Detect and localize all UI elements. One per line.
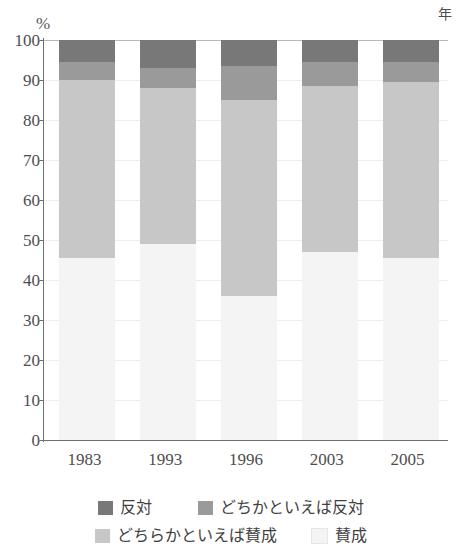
bar-segment[interactable] bbox=[59, 80, 115, 258]
y-tick-mark-0 bbox=[38, 440, 43, 441]
y-tick-label-70: 70 bbox=[4, 152, 40, 169]
x-tick-label-1996: 1996 bbox=[206, 450, 287, 470]
bar-segment[interactable] bbox=[140, 40, 196, 68]
bar-group-1993[interactable] bbox=[140, 40, 196, 440]
x-tick-label-2005: 2005 bbox=[367, 450, 448, 470]
y-tick-label-10: 10 bbox=[4, 392, 40, 409]
y-tick-label-0: 0 bbox=[4, 432, 40, 449]
y-axis-tick-labels: 1009080706050403020100 bbox=[0, 40, 40, 440]
y-tick-mark-50 bbox=[38, 240, 43, 241]
legend-row-bottom: どちらかといえば賛成 賛成 bbox=[0, 522, 461, 550]
legend-item-somewhat-oppose: どちかといえば反対 bbox=[198, 500, 364, 516]
bar-segment[interactable] bbox=[59, 258, 115, 440]
x-tick-label-1993: 1993 bbox=[125, 450, 206, 470]
y-tick-mark-20 bbox=[38, 360, 43, 361]
bar-segment[interactable] bbox=[221, 296, 277, 440]
x-axis-line bbox=[43, 440, 448, 441]
bar-group-1996[interactable] bbox=[221, 40, 277, 440]
y-tick-mark-60 bbox=[38, 200, 43, 201]
y-tick-mark-10 bbox=[38, 400, 43, 401]
bar-group-2005[interactable] bbox=[383, 40, 439, 440]
bar-group-1983[interactable] bbox=[59, 40, 115, 440]
x-tick-label-1983: 1983 bbox=[44, 450, 125, 470]
y-tick-mark-40 bbox=[38, 280, 43, 281]
bar-segment[interactable] bbox=[383, 62, 439, 82]
chart-legend: 反対 どちかといえば反対 どちらかといえば賛成 賛成 bbox=[0, 492, 461, 552]
x-tick-label-2003: 2003 bbox=[286, 450, 367, 470]
y-tick-label-80: 80 bbox=[4, 112, 40, 129]
y-tick-label-50: 50 bbox=[4, 232, 40, 249]
stacked-bar-chart: % 1009080706050403020100 198319931996200… bbox=[0, 0, 461, 554]
y-tick-mark-30 bbox=[38, 320, 43, 321]
legend-item-agree: 賛成 bbox=[311, 528, 367, 544]
x-axis-tick-labels: 19831993199620032005 bbox=[44, 450, 448, 476]
y-tick-mark-100 bbox=[38, 40, 43, 41]
bars-layer bbox=[44, 40, 448, 440]
y-tick-label-20: 20 bbox=[4, 352, 40, 369]
bar-segment[interactable] bbox=[383, 40, 439, 62]
y-tick-mark-90 bbox=[38, 80, 43, 81]
bar-segment[interactable] bbox=[383, 258, 439, 440]
y-tick-label-60: 60 bbox=[4, 192, 40, 209]
bar-segment[interactable] bbox=[302, 62, 358, 86]
bar-segment[interactable] bbox=[140, 68, 196, 88]
bar-segment[interactable] bbox=[59, 40, 115, 62]
y-tick-mark-70 bbox=[38, 160, 43, 161]
bar-segment[interactable] bbox=[383, 82, 439, 258]
bar-segment[interactable] bbox=[302, 40, 358, 62]
y-tick-label-90: 90 bbox=[4, 72, 40, 89]
y-tick-label-100: 100 bbox=[4, 32, 40, 49]
y-tick-label-40: 40 bbox=[4, 272, 40, 289]
bar-segment[interactable] bbox=[140, 244, 196, 440]
legend-label-oppose: 反対 bbox=[120, 500, 152, 516]
legend-row-top: 反対 どちかといえば反対 bbox=[0, 494, 461, 522]
legend-swatch-somewhat-oppose bbox=[198, 501, 213, 515]
x-axis-unit-label: 年 bbox=[438, 3, 452, 23]
bar-segment[interactable] bbox=[302, 252, 358, 440]
bar-segment[interactable] bbox=[140, 88, 196, 244]
y-tick-label-30: 30 bbox=[4, 312, 40, 329]
bar-segment[interactable] bbox=[59, 62, 115, 80]
legend-swatch-somewhat-agree bbox=[95, 529, 110, 543]
bar-segment[interactable] bbox=[302, 86, 358, 252]
bar-segment[interactable] bbox=[221, 100, 277, 296]
legend-swatch-oppose bbox=[98, 501, 113, 515]
legend-item-somewhat-agree: どちらかといえば賛成 bbox=[95, 528, 277, 544]
bar-segment[interactable] bbox=[221, 40, 277, 66]
bar-segment[interactable] bbox=[221, 66, 277, 100]
y-tick-mark-80 bbox=[38, 120, 43, 121]
legend-label-somewhat-agree: どちらかといえば賛成 bbox=[117, 528, 277, 544]
legend-label-agree: 賛成 bbox=[335, 528, 367, 544]
legend-item-oppose: 反対 bbox=[98, 500, 152, 516]
legend-swatch-agree bbox=[311, 528, 328, 544]
legend-label-somewhat-oppose: どちかといえば反対 bbox=[220, 500, 364, 516]
bar-group-2003[interactable] bbox=[302, 40, 358, 440]
